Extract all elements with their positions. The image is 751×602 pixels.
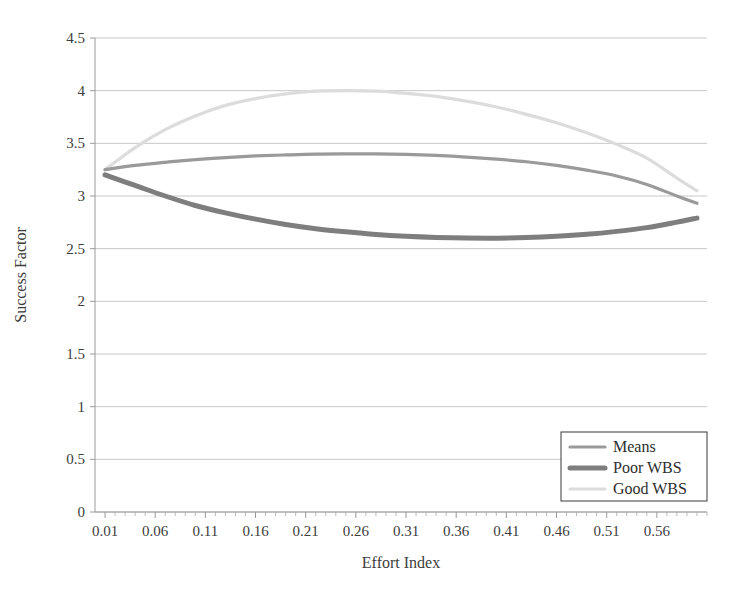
x-tick-label: 0.36 bbox=[443, 523, 470, 539]
x-tick-label: 0.41 bbox=[493, 523, 519, 539]
y-axis-title: Success Factor bbox=[12, 227, 29, 323]
y-tick-label: 1 bbox=[78, 399, 86, 415]
legend-label: Means bbox=[613, 438, 656, 455]
chart-container: 00.511.522.533.544.5 0.010.060.110.160.2… bbox=[0, 0, 751, 602]
y-tick-label: 0.5 bbox=[66, 451, 85, 467]
x-axis bbox=[95, 512, 707, 518]
y-tick-label: 2.5 bbox=[66, 241, 85, 257]
x-tick-label: 0.51 bbox=[594, 523, 620, 539]
x-tick-label: 0.16 bbox=[242, 523, 269, 539]
x-tick-label: 0.56 bbox=[644, 523, 671, 539]
series-line bbox=[105, 175, 697, 238]
y-tick-labels: 00.511.522.533.544.5 bbox=[66, 30, 85, 520]
y-axis bbox=[90, 38, 95, 512]
x-tick-label: 0.06 bbox=[142, 523, 169, 539]
y-tick-label: 0 bbox=[78, 504, 86, 520]
x-tick-label: 0.31 bbox=[393, 523, 419, 539]
x-tick-labels: 0.010.060.110.160.210.260.310.360.410.46… bbox=[92, 523, 671, 539]
y-tick-label: 4.5 bbox=[66, 30, 85, 46]
legend: MeansPoor WBSGood WBS bbox=[561, 432, 707, 501]
line-chart: 00.511.522.533.544.5 0.010.060.110.160.2… bbox=[0, 0, 751, 602]
y-tick-label: 4 bbox=[78, 83, 86, 99]
data-series-group bbox=[105, 91, 697, 238]
x-tick-label: 0.01 bbox=[92, 523, 118, 539]
x-axis-title: Effort Index bbox=[362, 554, 440, 571]
legend-label: Good WBS bbox=[613, 480, 687, 497]
x-tick-label: 0.11 bbox=[193, 523, 219, 539]
y-tick-label: 3.5 bbox=[66, 135, 85, 151]
x-tick-label: 0.21 bbox=[293, 523, 319, 539]
x-tick-label: 0.46 bbox=[543, 523, 570, 539]
y-tick-label: 2 bbox=[78, 293, 86, 309]
y-tick-label: 3 bbox=[78, 188, 86, 204]
legend-label: Poor WBS bbox=[613, 459, 682, 476]
x-tick-label: 0.26 bbox=[343, 523, 370, 539]
y-tick-label: 1.5 bbox=[66, 346, 85, 362]
